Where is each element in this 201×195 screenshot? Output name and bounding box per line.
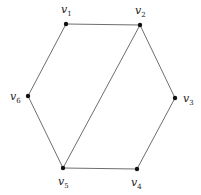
vertex-subscript-v5: 5 xyxy=(64,182,68,190)
vertex-subscript-v3: 3 xyxy=(189,99,193,107)
edge-v1-v2 xyxy=(66,24,140,25)
edge-v6-v1 xyxy=(28,24,66,96)
edge-v2-v3 xyxy=(140,25,175,98)
labels-group: v1v2v3v4v5v6 xyxy=(10,3,194,191)
vertex-subscript-v2: 2 xyxy=(141,11,145,19)
edge-v2-v5 xyxy=(63,25,140,168)
vertex-subscript-v4: 4 xyxy=(137,183,142,191)
vertex-v3 xyxy=(173,96,177,100)
vertex-v6 xyxy=(26,94,30,98)
edge-v3-v4 xyxy=(137,98,175,169)
vertex-subscript-v6: 6 xyxy=(16,97,21,105)
edge-v4-v5 xyxy=(63,168,137,169)
graph-diagram: v1v2v3v4v5v6 xyxy=(0,0,201,195)
vertex-label-v3: v3 xyxy=(183,92,194,107)
vertex-label-v2: v2 xyxy=(135,4,146,19)
vertex-v1 xyxy=(64,22,68,26)
vertex-label-v4: v4 xyxy=(131,176,142,191)
vertex-v5 xyxy=(61,166,65,170)
vertex-v4 xyxy=(135,167,139,171)
vertex-v2 xyxy=(138,23,142,27)
vertex-label-v5: v5 xyxy=(58,175,69,190)
edges-group xyxy=(28,24,175,169)
edge-v5-v6 xyxy=(28,96,63,168)
vertex-label-v6: v6 xyxy=(10,90,21,105)
vertex-label-v1: v1 xyxy=(61,3,72,18)
vertex-subscript-v1: 1 xyxy=(67,10,71,18)
